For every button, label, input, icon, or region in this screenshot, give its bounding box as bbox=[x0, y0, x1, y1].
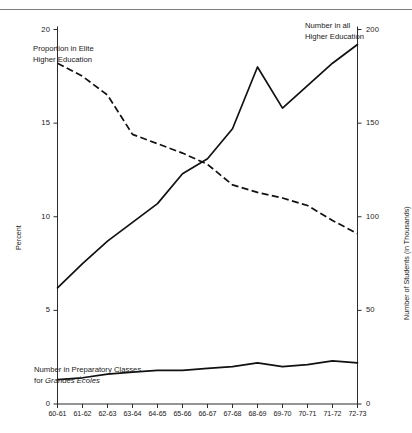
left-axis-tick-label: 15 bbox=[20, 118, 50, 127]
chart-container: 05101520 050100150200 60-6161-6262-6363-… bbox=[0, 0, 412, 433]
series-line-elite-proportion bbox=[58, 63, 358, 233]
series-line-all-higher-education bbox=[58, 44, 358, 287]
right-axis-tick-label: 200 bbox=[366, 25, 400, 34]
left-axis-tick-label: 10 bbox=[20, 212, 50, 221]
left-axis-tick-label: 20 bbox=[20, 25, 50, 34]
annotation-prep-line1: Number in Preparatory Classes bbox=[34, 365, 141, 376]
right-axis-tick-label: 150 bbox=[366, 118, 400, 127]
annotation-elite-line1: Proportion in Elite bbox=[33, 44, 94, 55]
annotation-prep-line2: for Grandes Écoles bbox=[34, 376, 141, 387]
axes-group bbox=[54, 27, 362, 409]
annotation-all-he-line1: Number in all bbox=[305, 21, 364, 32]
annotation-all-higher-education: Number in all Higher Education bbox=[305, 21, 364, 42]
annotation-prep-grandes-ecoles: Grandes Écoles bbox=[45, 376, 100, 385]
right-axis-tick-label: 50 bbox=[366, 305, 400, 314]
left-axis-tick-label: 5 bbox=[20, 305, 50, 314]
annotation-prep-prefix: for bbox=[34, 376, 45, 385]
x-axis-tick-label: 72-73 bbox=[341, 410, 375, 418]
annotation-preparatory-classes: Number in Preparatory Classes for Grande… bbox=[34, 365, 141, 386]
annotation-all-he-line2: Higher Education bbox=[305, 32, 364, 43]
left-axis-tick-label: 0 bbox=[20, 399, 50, 408]
left-axis-title: Percent bbox=[14, 225, 23, 250]
series-group bbox=[58, 44, 358, 379]
left-and-bottom-axis-line bbox=[58, 27, 358, 405]
right-axis-title: Number of Students (in Thousands) bbox=[402, 206, 411, 320]
annotation-elite-higher-education: Proportion in Elite Higher Education bbox=[33, 44, 94, 65]
annotation-elite-line2: Higher Education bbox=[33, 55, 94, 66]
right-axis-tick-label: 0 bbox=[366, 399, 400, 408]
right-axis-tick-label: 100 bbox=[366, 212, 400, 221]
